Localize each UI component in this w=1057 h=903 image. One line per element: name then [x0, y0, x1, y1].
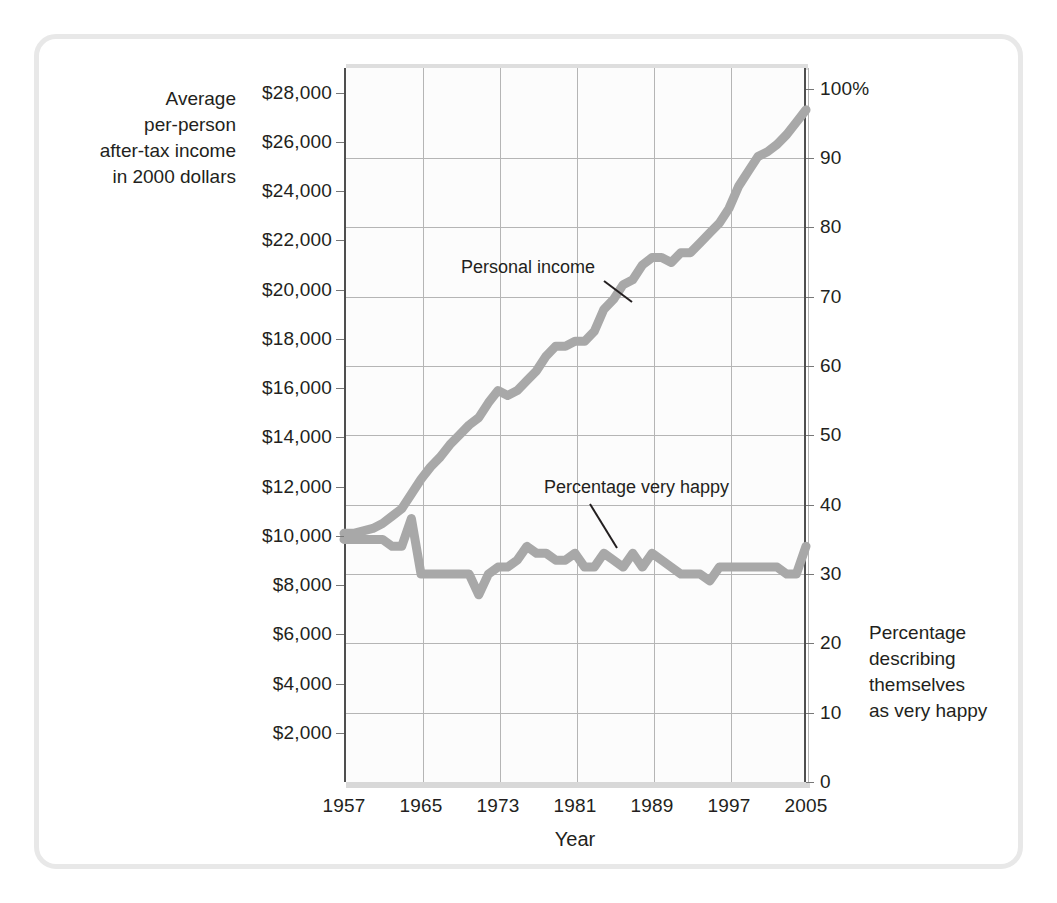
- horizontal-gridline: [346, 158, 804, 159]
- right-tick-label: 20: [820, 632, 842, 654]
- left-tick-mark: [336, 142, 344, 143]
- right-tick-mark: [806, 227, 814, 228]
- left-tick-mark: [336, 388, 344, 389]
- left-tick-label: $16,000: [262, 377, 332, 399]
- left-tick-label: $6,000: [273, 623, 332, 645]
- x-axis-title: Year: [344, 828, 806, 851]
- right-tick-mark: [806, 158, 814, 159]
- right-tick-label: 90: [820, 147, 842, 169]
- horizontal-gridline: [346, 713, 804, 714]
- left-tick-label: $24,000: [262, 180, 332, 202]
- right-tick-label: 30: [820, 563, 842, 585]
- right-tick-label: 60: [820, 355, 842, 377]
- right-tick-label: 40: [820, 494, 842, 516]
- right-tick-label: 100%: [820, 78, 869, 100]
- left-tick-mark: [336, 191, 344, 192]
- vertical-gridline: [423, 68, 424, 782]
- left-tick-mark: [336, 290, 344, 291]
- left-tick-label: $2,000: [273, 722, 332, 744]
- vertical-gridline: [654, 68, 655, 782]
- left-tick-label: $28,000: [262, 82, 332, 104]
- x-tick-label: 2005: [784, 795, 827, 817]
- left-tick-label: $20,000: [262, 279, 332, 301]
- right-tick-mark: [806, 297, 814, 298]
- left-tick-mark: [336, 634, 344, 635]
- left-tick-mark: [336, 733, 344, 734]
- x-tick-label: 1981: [553, 795, 596, 817]
- horizontal-gridline: [346, 643, 804, 644]
- annotation-personal-income: Personal income: [461, 257, 595, 278]
- left-tick-mark: [336, 339, 344, 340]
- left-tick-label: $8,000: [273, 574, 332, 596]
- plot-bottom-shadow: [346, 782, 810, 788]
- right-tick-mark: [806, 505, 814, 506]
- left-tick-label: $26,000: [262, 131, 332, 153]
- vertical-gridline: [500, 68, 501, 782]
- horizontal-gridline: [346, 505, 804, 506]
- x-tick-label: 1957: [322, 795, 365, 817]
- left-tick-label: $18,000: [262, 328, 332, 350]
- right-tick-label: 0: [820, 771, 831, 793]
- left-tick-mark: [336, 487, 344, 488]
- left-tick-mark: [336, 536, 344, 537]
- right-tick-mark: [806, 574, 814, 575]
- x-tick-label: 1973: [476, 795, 519, 817]
- right-tick-mark: [806, 713, 814, 714]
- left-tick-mark: [336, 93, 344, 94]
- right-tick-label: 70: [820, 286, 842, 308]
- left-tick-mark: [336, 684, 344, 685]
- vertical-gridline: [808, 68, 809, 782]
- right-tick-mark: [806, 435, 814, 436]
- left-tick-mark: [336, 437, 344, 438]
- vertical-gridline: [577, 68, 578, 782]
- left-tick-mark: [336, 585, 344, 586]
- left-axis-ticks: $28,000$26,000$24,000$22,000$20,000$18,0…: [180, 68, 332, 782]
- left-tick-label: $12,000: [262, 476, 332, 498]
- right-tick-label: 10: [820, 702, 842, 724]
- left-tick-label: $10,000: [262, 525, 332, 547]
- x-tick-label: 1997: [707, 795, 750, 817]
- left-tick-label: $22,000: [262, 229, 332, 251]
- horizontal-gridline: [346, 435, 804, 436]
- horizontal-gridline: [346, 227, 804, 228]
- annotation-percentage-very-happy: Percentage very happy: [544, 477, 729, 498]
- x-axis-ticks: 1957196519731981198919972005: [344, 795, 806, 825]
- horizontal-gridline: [346, 366, 804, 367]
- right-tick-mark: [806, 643, 814, 644]
- right-tick-mark: [806, 89, 814, 90]
- plot-area: [344, 68, 806, 782]
- right-axis-ticks: 100%9080706050403020100: [820, 68, 910, 782]
- right-tick-label: 50: [820, 424, 842, 446]
- x-tick-label: 1965: [399, 795, 442, 817]
- vertical-gridline: [731, 68, 732, 782]
- left-tick-mark: [336, 240, 344, 241]
- right-tick-mark: [806, 782, 814, 783]
- right-tick-mark: [806, 366, 814, 367]
- figure-root: Average per-person after-tax income in 2…: [0, 0, 1057, 903]
- left-tick-label: $14,000: [262, 426, 332, 448]
- right-tick-label: 80: [820, 216, 842, 238]
- horizontal-gridline: [346, 574, 804, 575]
- x-tick-label: 1989: [630, 795, 673, 817]
- left-tick-label: $4,000: [273, 673, 332, 695]
- horizontal-gridline: [346, 297, 804, 298]
